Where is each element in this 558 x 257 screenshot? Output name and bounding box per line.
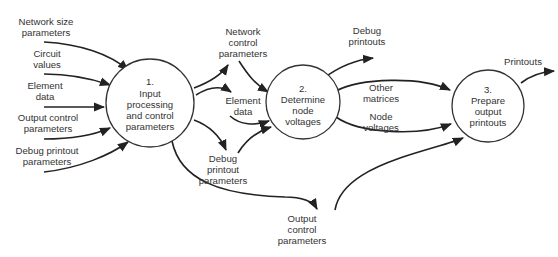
process-1-line-2: processing (127, 99, 173, 110)
label-debug-printout-1: Debug printout (16, 145, 79, 156)
label-other-matrices-2: matrices (363, 93, 399, 104)
process-1-line-1: Input (139, 88, 161, 99)
arrow-output-control-to-p3 (335, 138, 463, 210)
label-element-data-1: Element (27, 80, 63, 91)
label-debug-printouts-1: Debug (353, 25, 381, 36)
process-1-line-3: and control (126, 110, 173, 121)
arrow-element-data-to-p2 (230, 116, 269, 124)
label-debug-params-2: printout (207, 164, 239, 175)
process-2-line-1: Determine (281, 94, 325, 105)
arrow-to-element-data (196, 88, 231, 95)
process-1-number: 1. (146, 76, 154, 87)
arrow-other-matrices (336, 80, 450, 91)
label-circuit-values-2: values (33, 59, 61, 70)
process2-output-arrows (324, 58, 463, 210)
arrow-network-control-to-p2 (239, 61, 268, 92)
process-3: 3. Prepare output printouts (452, 70, 524, 142)
label-debug-printout-2: parameters (23, 156, 72, 167)
label-network-control-1: Network (225, 26, 260, 37)
arrow-to-debug-params (194, 120, 226, 150)
label-output-control-mid-1: Output (288, 213, 317, 224)
process-3-line-3: printouts (470, 117, 507, 128)
arrow-to-debug-printouts (324, 58, 373, 78)
label-output-control-mid-3: parameters (278, 235, 327, 246)
label-element-data-mid-1: Element (225, 95, 261, 106)
label-network-control-3: parameters (219, 48, 268, 59)
process-2-number: 2. (299, 83, 307, 94)
label-circuit-values-1: Circuit (33, 48, 61, 59)
process-1-line-4: parameters (126, 121, 175, 132)
input-labels: Network size parameters Circuit values E… (16, 16, 79, 167)
process-3-number: 3. (484, 84, 492, 95)
process-3-line-1: Prepare (471, 95, 505, 106)
label-element-data-2: data (36, 91, 55, 102)
label-output-control-1: Output control (18, 112, 78, 123)
data-flow-diagram: 1. Input processing and control paramete… (0, 0, 558, 257)
label-debug-params-1: Debug (209, 153, 237, 164)
process-2-line-3: voltages (285, 116, 321, 127)
process2-output-labels: Debug printouts Other matrices Node volt… (349, 25, 400, 133)
arrow-to-network-control (194, 65, 228, 88)
label-other-matrices-1: Other (369, 82, 394, 93)
process-1: 1. Input processing and control paramete… (106, 59, 194, 147)
label-output-control-2: parameters (24, 123, 73, 134)
label-element-data-mid-2: data (234, 106, 253, 117)
label-node-voltages-2: voltages (363, 122, 399, 133)
label-debug-printouts-2: printouts (349, 36, 386, 47)
process-2: 2. Determine node voltages (266, 65, 340, 139)
process-2-line-2: node (292, 105, 313, 116)
label-debug-params-3: parameters (199, 175, 248, 186)
process-3-line-2: output (475, 106, 502, 117)
arrow-debug-params-to-p2 (238, 127, 271, 153)
label-output-control-mid-2: control (288, 224, 317, 235)
label-network-size-1: Network size (19, 16, 74, 27)
arrow-printouts (521, 71, 554, 83)
label-network-control-2: control (229, 37, 258, 48)
label-network-size-2: parameters (22, 27, 71, 38)
label-node-voltages-1: Node (370, 111, 393, 122)
label-printouts: Printouts (504, 56, 542, 67)
